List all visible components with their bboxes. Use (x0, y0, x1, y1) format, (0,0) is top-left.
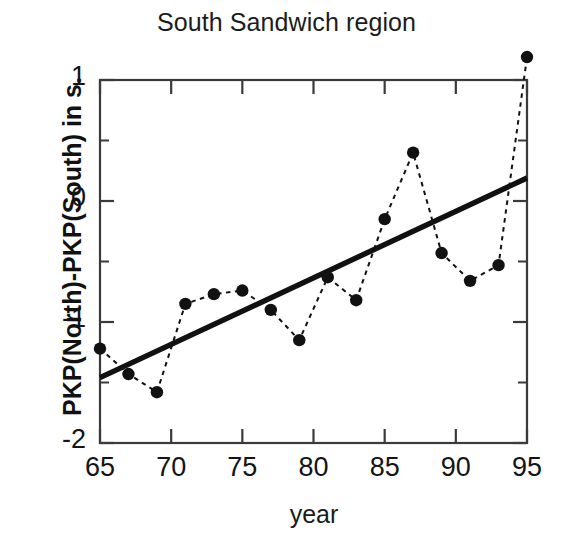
y-tick-label: 1 (28, 61, 86, 92)
axes-frame (100, 80, 527, 443)
x-tick-label: 90 (426, 452, 486, 483)
data-point-marker (94, 342, 106, 354)
data-point-marker (350, 294, 362, 306)
x-tick-label: 75 (212, 452, 272, 483)
y-tick-label: -1 (28, 303, 86, 334)
y-tick-label: 0 (28, 182, 86, 213)
data-point-marker (179, 298, 191, 310)
x-tick-label: 70 (141, 452, 201, 483)
data-point-marker (492, 259, 504, 271)
data-point-marker (122, 368, 134, 380)
chart-figure: South Sandwich region PKP(North)-PKP(Sou… (0, 0, 573, 544)
x-tick-label: 95 (497, 452, 557, 483)
data-point-marker (464, 275, 476, 287)
data-point-marker (265, 304, 277, 316)
x-tick-label: 85 (355, 452, 415, 483)
data-series-dotted-line (100, 57, 527, 392)
trend-line (100, 178, 527, 378)
data-point-marker (151, 386, 163, 398)
x-tick-label: 80 (284, 452, 344, 483)
data-point-marker (322, 271, 334, 283)
data-point-marker (208, 288, 220, 300)
data-point-marker (407, 146, 419, 158)
y-tick-label: -2 (28, 424, 86, 455)
data-point-marker (378, 213, 390, 225)
data-point-marker (293, 334, 305, 346)
data-point-marker (435, 247, 447, 259)
data-point-marker (236, 284, 248, 296)
x-tick-label: 65 (70, 452, 130, 483)
data-point-marker (521, 51, 533, 63)
